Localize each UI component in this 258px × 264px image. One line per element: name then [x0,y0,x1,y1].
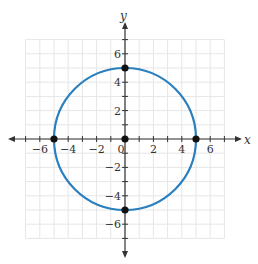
y-axis-up-arrow-icon [122,22,128,29]
x-tick-label: 0 [118,143,125,156]
x-axis-left-arrow-icon [8,136,15,142]
data-point [121,135,128,142]
y-axis-down-arrow-icon [122,251,128,258]
y-axis-label: y [119,9,127,23]
y-tick-label: −6 [105,218,121,231]
y-tick-label: −2 [105,161,121,174]
x-axis-right-arrow-icon [235,136,242,142]
x-axis-label: x [244,133,251,147]
x-tick-label: 4 [178,143,185,156]
x-tick-label: −2 [88,143,104,156]
y-tick-label: −4 [105,190,121,203]
circle-graph: −6−4−20246−6−4−2246 x y [0,0,258,264]
x-tick-label: −4 [60,143,76,156]
x-tick-label: 6 [207,143,214,156]
data-point [121,64,128,71]
y-tick-label: 4 [114,76,121,89]
data-point [192,135,199,142]
x-tick-label: −6 [32,143,48,156]
data-point [121,206,128,213]
y-tick-label: 2 [114,105,121,118]
data-point [50,135,57,142]
y-tick-label: 6 [114,48,121,61]
x-tick-label: 2 [150,143,157,156]
